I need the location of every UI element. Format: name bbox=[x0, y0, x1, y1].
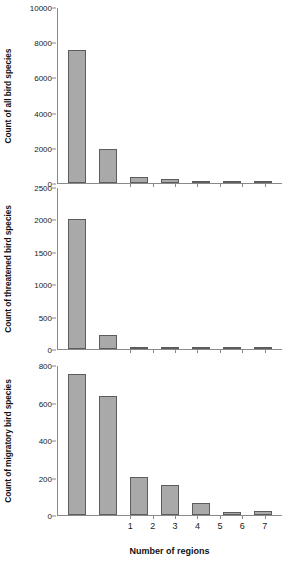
y-tick-label: 4000 bbox=[34, 109, 52, 118]
x-tick-mark bbox=[242, 183, 243, 187]
bar bbox=[99, 335, 117, 349]
y-tick-mark bbox=[52, 184, 56, 185]
y-tick-mark bbox=[52, 478, 56, 479]
bar-cell bbox=[216, 366, 247, 515]
x-tick-mark bbox=[265, 515, 266, 519]
y-axis-title-migratory-text: Count of migratory bird species bbox=[3, 379, 13, 502]
y-tick-mark bbox=[52, 350, 56, 351]
y-axis-ticks-migratory: 0200400600800 bbox=[16, 366, 56, 516]
y-tick-mark bbox=[52, 317, 56, 318]
bar-cell bbox=[124, 8, 155, 183]
x-tick-mark bbox=[220, 515, 221, 519]
x-tick-mark bbox=[220, 183, 221, 187]
bar-cell bbox=[247, 188, 278, 349]
x-tick-label: 4 bbox=[186, 521, 208, 531]
x-tick-mark bbox=[242, 515, 243, 519]
x-tick-label: 2 bbox=[141, 521, 163, 531]
x-tick-cell: 7 bbox=[254, 515, 276, 537]
y-axis-title-migratory: Count of migratory bird species bbox=[0, 366, 16, 516]
y-tick-label: 2000 bbox=[34, 144, 52, 153]
bar bbox=[68, 219, 86, 349]
bar-cell bbox=[185, 8, 216, 183]
y-tick-label: 2500 bbox=[34, 184, 52, 193]
x-tick-label: 5 bbox=[209, 521, 231, 531]
panel-migratory-bird-species: Count of migratory bird species 02004006… bbox=[0, 366, 284, 516]
x-tick-mark bbox=[130, 349, 131, 353]
y-tick-label: 10000 bbox=[30, 4, 52, 13]
y-tick-label: 6000 bbox=[34, 74, 52, 83]
x-tick-cell: 4 bbox=[186, 515, 208, 537]
bar-cell bbox=[247, 366, 278, 515]
bar bbox=[68, 374, 86, 515]
x-tick-mark bbox=[265, 183, 266, 187]
bar-cell bbox=[124, 366, 155, 515]
bar bbox=[192, 503, 210, 515]
bar-cell bbox=[216, 8, 247, 183]
y-tick-mark bbox=[52, 403, 56, 404]
bar-group-migratory bbox=[58, 366, 282, 515]
y-tick-label: 1500 bbox=[34, 248, 52, 257]
panel-all-bird-species: Count of all bird species 02000400060008… bbox=[0, 8, 284, 184]
bar-cell bbox=[155, 8, 186, 183]
y-tick-label: 2000 bbox=[34, 216, 52, 225]
x-tick-mark bbox=[220, 349, 221, 353]
x-tick-mark bbox=[175, 349, 176, 353]
plot-area-threatened: 1234567 bbox=[57, 188, 282, 350]
bar-cell bbox=[93, 188, 124, 349]
y-tick-mark bbox=[52, 441, 56, 442]
y-axis-ticks-all: 0200040006000800010000 bbox=[16, 8, 56, 184]
x-tick-cell: 5 bbox=[209, 515, 231, 537]
panel-threatened-bird-species: Count of threatened bird species 0500100… bbox=[0, 188, 284, 350]
y-tick-mark bbox=[52, 366, 56, 367]
bird-species-by-region-figure: Count of all bird species 02000400060008… bbox=[0, 0, 284, 574]
x-tick-label: 1 bbox=[119, 521, 141, 531]
bar-cell bbox=[93, 366, 124, 515]
bar-cell bbox=[155, 188, 186, 349]
bar-cell bbox=[62, 366, 93, 515]
y-tick-label: 1000 bbox=[34, 281, 52, 290]
bar-cell bbox=[185, 366, 216, 515]
x-tick-mark bbox=[153, 515, 154, 519]
bar-cell bbox=[93, 8, 124, 183]
bar-cell bbox=[62, 8, 93, 183]
x-tick-cell: 6 bbox=[231, 515, 253, 537]
x-axis-ticks-migratory: 1234567 bbox=[115, 515, 280, 537]
x-tick-label: 3 bbox=[164, 521, 186, 531]
bar bbox=[161, 485, 179, 515]
x-tick-cell: 2 bbox=[141, 515, 163, 537]
y-tick-label: 400 bbox=[39, 437, 52, 446]
x-tick-mark bbox=[197, 349, 198, 353]
y-tick-mark bbox=[52, 188, 56, 189]
x-axis-title: Number of regions bbox=[57, 546, 282, 556]
x-tick-mark bbox=[153, 349, 154, 353]
plot-area-all: 1234567 bbox=[57, 8, 282, 184]
x-tick-cell: 3 bbox=[164, 515, 186, 537]
x-tick-mark bbox=[175, 515, 176, 519]
y-axis-title-all-text: Count of all bird species bbox=[3, 49, 13, 144]
x-tick-mark bbox=[130, 515, 131, 519]
x-tick-mark bbox=[153, 183, 154, 187]
y-tick-label: 200 bbox=[39, 474, 52, 483]
y-tick-mark bbox=[52, 285, 56, 286]
bar-cell bbox=[247, 8, 278, 183]
x-tick-mark bbox=[242, 349, 243, 353]
x-tick-cell: 1 bbox=[119, 515, 141, 537]
y-tick-label: 600 bbox=[39, 399, 52, 408]
x-tick-label: 6 bbox=[231, 521, 253, 531]
y-axis-ticks-threatened: 05001000150020002500 bbox=[16, 188, 56, 350]
y-tick-mark bbox=[52, 78, 56, 79]
y-tick-mark bbox=[52, 43, 56, 44]
y-tick-mark bbox=[52, 252, 56, 253]
y-tick-mark bbox=[52, 516, 56, 517]
bar bbox=[130, 477, 148, 515]
y-axis-title-all: Count of all bird species bbox=[0, 8, 16, 184]
y-tick-label: 8000 bbox=[34, 39, 52, 48]
x-tick-mark bbox=[197, 183, 198, 187]
bar-cell bbox=[185, 188, 216, 349]
x-tick-label: 7 bbox=[254, 521, 276, 531]
y-tick-mark bbox=[52, 148, 56, 149]
y-tick-mark bbox=[52, 220, 56, 221]
bar-cell bbox=[62, 188, 93, 349]
bar-group-threatened bbox=[58, 188, 282, 349]
bar-group-all bbox=[58, 8, 282, 183]
